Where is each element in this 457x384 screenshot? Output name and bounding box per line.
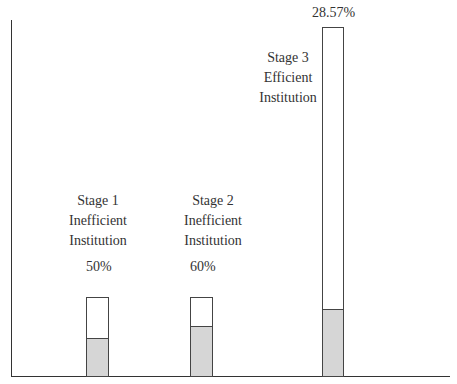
x-axis xyxy=(11,376,450,377)
stage-1-label: Stage 1 Inefficient Institution xyxy=(66,191,130,251)
stage-3-percent: 28.57% xyxy=(312,5,355,21)
stage-1-bar-fill xyxy=(87,338,108,376)
stage-2-institution: Institution xyxy=(181,231,245,251)
stage-1-title: Stage 1 xyxy=(66,191,130,211)
stage-1-bar xyxy=(86,297,109,377)
stage-3-label: Stage 3 Efficient Institution xyxy=(256,48,320,108)
stage-1-institution: Institution xyxy=(66,231,130,251)
stage-3-bar-fill xyxy=(323,309,343,376)
stage-3-type: Efficient xyxy=(256,68,320,88)
stage-3-title: Stage 3 xyxy=(256,48,320,68)
stage-3-institution: Institution xyxy=(256,88,320,108)
stage-1-percent: 50% xyxy=(86,259,112,275)
stage-2-title: Stage 2 xyxy=(181,191,245,211)
stage-1-type: Inefficient xyxy=(66,211,130,231)
stage-2-label: Stage 2 Inefficient Institution xyxy=(181,191,245,251)
y-axis xyxy=(11,20,12,377)
stage-2-type: Inefficient xyxy=(181,211,245,231)
stage-2-bar xyxy=(190,297,213,377)
stage-2-percent: 60% xyxy=(190,259,216,275)
stage-2-bar-fill xyxy=(191,326,212,376)
stage-3-bar xyxy=(322,27,344,377)
